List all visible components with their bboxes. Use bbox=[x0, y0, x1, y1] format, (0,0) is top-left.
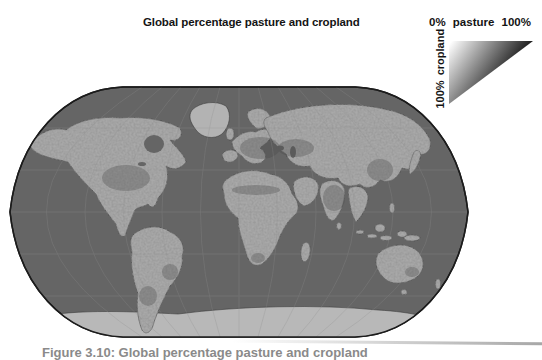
figure-caption: Figure 3.10: Global percentage pasture a… bbox=[42, 345, 368, 360]
figure-title: Global percentage pasture and cropland bbox=[143, 16, 360, 28]
continent-australia bbox=[376, 245, 423, 283]
world-map bbox=[8, 86, 470, 338]
legend-pasture-axis-label: 0% pasture 100% bbox=[429, 16, 531, 28]
hudson-bay bbox=[144, 135, 164, 153]
